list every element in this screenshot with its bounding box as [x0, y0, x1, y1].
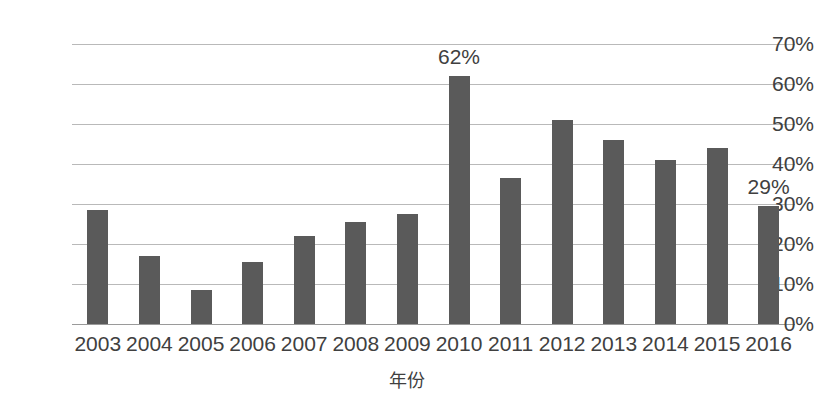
x-axis-tick-label: 2003 — [72, 333, 124, 354]
gridline-40 — [72, 164, 795, 165]
bar-2010 — [449, 76, 470, 324]
x-axis-tick-label: 2014 — [639, 333, 691, 354]
x-axis-tick-label: 2006 — [227, 333, 279, 354]
x-axis-tick-label: 2012 — [536, 333, 588, 354]
y-axis-tick-label: 70% — [752, 33, 814, 54]
x-axis-tick-label: 2009 — [381, 333, 433, 354]
gridline-20 — [72, 244, 795, 245]
x-axis-tick-label: 2005 — [175, 333, 227, 354]
x-axis-tick-label: 2016 — [743, 333, 795, 354]
bar-2004 — [139, 256, 160, 324]
bar-2008 — [345, 222, 366, 324]
bar-2009 — [397, 214, 418, 324]
axis-baseline — [72, 324, 795, 325]
bar-2007 — [294, 236, 315, 324]
x-axis-tick-label: 2010 — [433, 333, 485, 354]
y-axis-tick-label: 50% — [752, 113, 814, 134]
bar-2015 — [707, 148, 728, 324]
bar-2003 — [87, 210, 108, 324]
bar-chart: 70%60%50%40%30%20%10%0% 2003200420052006… — [0, 0, 814, 413]
gridline-60 — [72, 84, 795, 85]
data-label-2010: 62% — [419, 46, 499, 67]
x-axis-tick-label: 2011 — [485, 333, 537, 354]
bar-2012 — [552, 120, 573, 324]
y-axis-tick-label: 40% — [752, 153, 814, 174]
gridline-30 — [72, 204, 795, 205]
x-axis-tick-label: 2007 — [278, 333, 330, 354]
x-axis-tick-label: 2004 — [123, 333, 175, 354]
data-label-2016: 29% — [729, 176, 809, 197]
bar-2013 — [603, 140, 624, 324]
y-axis-tick-label: 60% — [752, 73, 814, 94]
bar-2016 — [758, 206, 779, 324]
gridline-10 — [72, 284, 795, 285]
gridline-50 — [72, 124, 795, 125]
x-axis-tick-label: 2013 — [588, 333, 640, 354]
bar-2006 — [242, 262, 263, 324]
bar-2014 — [655, 160, 676, 324]
x-axis-title: 年份 — [0, 366, 814, 392]
gridline-70 — [72, 44, 795, 45]
bar-2011 — [500, 178, 521, 324]
x-axis-tick-label: 2008 — [330, 333, 382, 354]
x-axis-tick-label: 2015 — [691, 333, 743, 354]
bar-2005 — [191, 290, 212, 324]
